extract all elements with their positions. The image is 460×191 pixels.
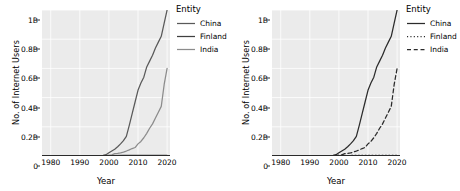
x-axis-title-right: Year [272,176,400,186]
internet-users-figure: No. of Internet Users 00.2B0.4B0.6B0.8B1… [0,0,460,191]
legend-key-dashed-icon [406,44,426,55]
plot-area-left [42,10,170,156]
plot-svg-right [272,10,400,156]
legend-item-china[interactable]: China [406,17,460,30]
legend-label: Finland [430,32,457,41]
gridlines-left [42,10,170,156]
x-axis-line-left [42,155,170,156]
y-tick-mark [267,136,270,137]
y-tick-mark [37,49,40,50]
legend-key-solid-icon [176,18,196,29]
x-tick-label: 2020 [147,158,187,167]
plot-area-right [272,10,400,156]
legend-item-china[interactable]: China [176,17,230,30]
legend-key-dotted-icon [406,31,426,42]
y-tick-mark [37,136,40,137]
legend-label: China [200,19,221,28]
y-tick-mark [37,107,40,108]
legend-items-right: ChinaFinlandIndia [406,17,460,56]
y-tick-mark [267,78,270,79]
legend-right: Entity ChinaFinlandIndia [406,4,460,56]
y-axis-ticks-left: 00.2B0.4B0.6B0.8B1B [0,10,42,156]
legend-label: India [200,45,218,54]
x-axis-line-right [272,155,400,156]
y-tick-mark [267,107,270,108]
legend-title-left: Entity [176,4,230,14]
x-axis-title-left: Year [42,176,170,186]
legend-label: China [430,19,451,28]
legend-key-solid-icon [406,18,426,29]
y-tick-mark [37,20,40,21]
chart-panel-right: No. of Internet Users 00.2B0.4B0.6B0.8B1… [230,0,460,191]
legend-key-solid-icon [176,31,196,42]
legend-items-left: ChinaFinlandIndia [176,17,230,56]
legend-label: Finland [200,32,227,41]
x-tick-label: 2020 [377,158,417,167]
legend-left: Entity ChinaFinlandIndia [176,4,230,56]
plot-svg-left [42,10,170,156]
x-axis-ticks-left: 19801990200020102020 [42,158,170,172]
legend-label: India [430,45,448,54]
legend-item-india[interactable]: India [406,43,460,56]
legend-item-finland[interactable]: Finland [406,30,460,43]
y-tick-mark [267,49,270,50]
x-axis-ticks-right: 19801990200020102020 [272,158,400,172]
gridlines-right [272,10,400,156]
legend-item-india[interactable]: India [176,43,230,56]
y-axis-ticks-right: 00.2B0.4B0.6B0.8B1B [230,10,272,156]
y-tick-mark [267,20,270,21]
legend-item-finland[interactable]: Finland [176,30,230,43]
legend-key-solid-icon [176,44,196,55]
y-tick-mark [37,78,40,79]
chart-panel-left: No. of Internet Users 00.2B0.4B0.6B0.8B1… [0,0,230,191]
legend-title-right: Entity [406,4,460,14]
